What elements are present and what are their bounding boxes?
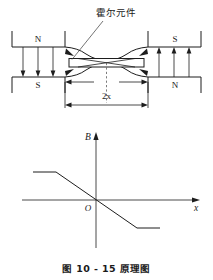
dimension-arrowhead-inner-right [142, 80, 149, 85]
flux-arrow-lower-left [65, 69, 74, 76]
hall-element-leader-line [72, 21, 103, 60]
dimension-arrowhead-inner-left [65, 80, 72, 85]
field-arrows-left [21, 47, 56, 77]
dimension-arrowhead-right [142, 103, 149, 108]
pole-label-bottom-right: N [172, 80, 179, 90]
magnet-top-left: N [12, 31, 65, 47]
flux-arrow-lower-right [139, 69, 148, 76]
field-arrow-right-3 [187, 47, 192, 77]
magnet-bottom-right: N [148, 77, 201, 93]
y-axis-label: B [85, 132, 91, 142]
hall-element-label: 霍尔元件 [96, 7, 136, 18]
flux-arrow-upper-left [65, 49, 74, 57]
pole-label-top-right: S [172, 34, 177, 44]
x-axis: x [22, 197, 200, 213]
y-axis: B [85, 132, 99, 248]
dimension-arrowhead-left [65, 103, 72, 108]
field-arrow-left-3 [51, 47, 56, 77]
pole-label-bottom-left: S [35, 80, 40, 90]
figure-caption: 图 10 - 15 原理图 [62, 263, 151, 274]
flux-arrow-upper-right [139, 49, 148, 57]
field-arrow-right-2 [172, 47, 177, 77]
field-arrows-right [157, 47, 192, 77]
x-axis-label: x [193, 203, 199, 213]
field-arrow-left-1 [21, 47, 26, 77]
figure-svg: N S [0, 0, 213, 280]
dimension-label: 2x [102, 91, 112, 101]
pole-label-top-left: N [35, 34, 42, 44]
hall-effect-figure: N S [0, 0, 213, 280]
y-axis-arrowhead [93, 132, 98, 140]
hall-element [69, 59, 144, 68]
x-axis-arrowhead [192, 197, 200, 202]
field-arrow-right-1 [157, 47, 162, 77]
field-arrow-left-2 [36, 47, 41, 77]
magnet-assembly-diagram: N S [12, 7, 201, 108]
b-vs-x-chart: B x O [22, 132, 200, 248]
magnet-bottom-left: S [12, 77, 65, 93]
origin-label: O [85, 203, 92, 213]
magnet-top-right: S [148, 31, 201, 47]
